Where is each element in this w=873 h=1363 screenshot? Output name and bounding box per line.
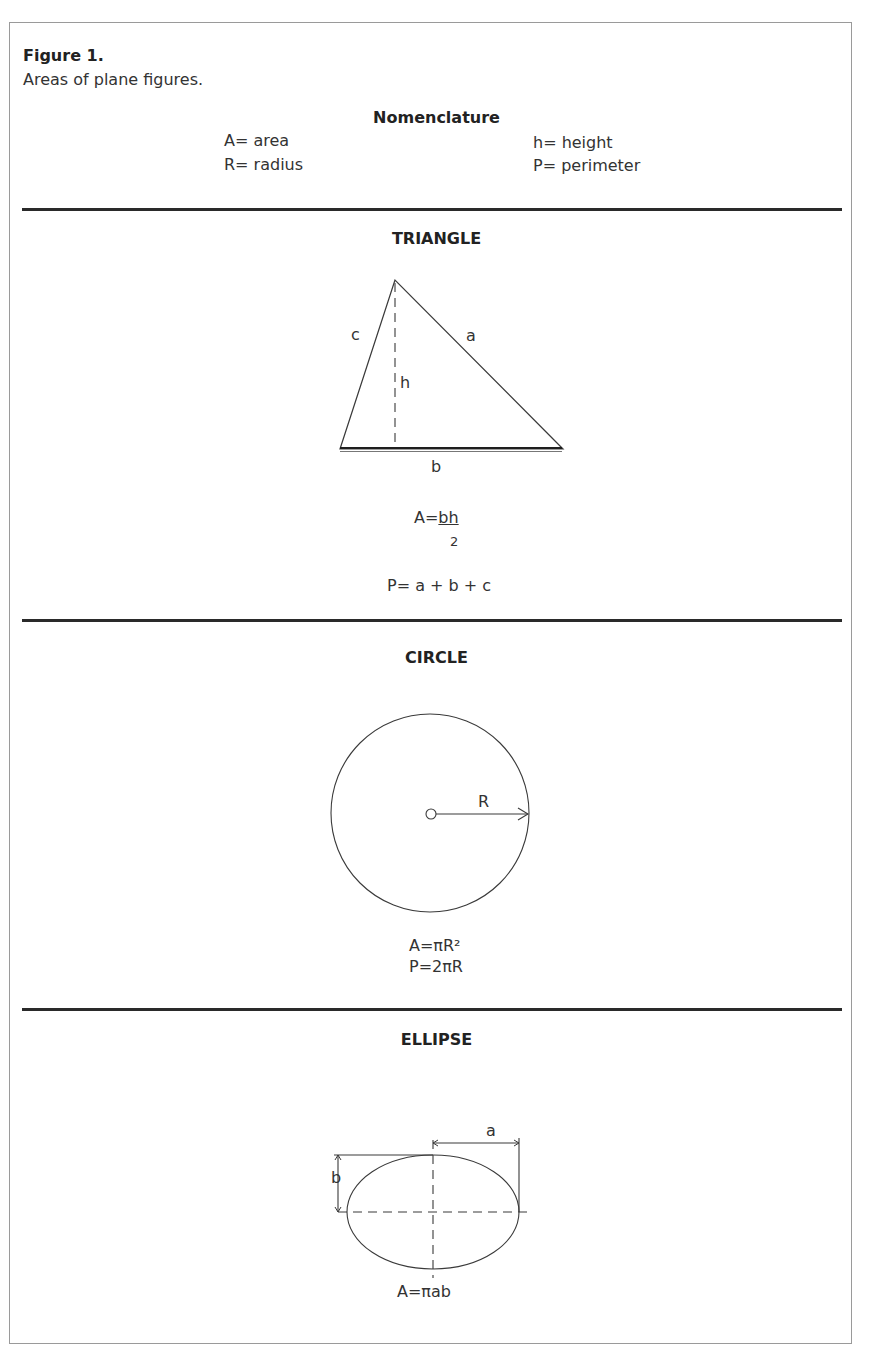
- ellipse-label-a: a: [486, 1121, 496, 1140]
- ellipse-label-b: b: [331, 1168, 341, 1187]
- ellipse-area-formula: A=πab: [397, 1282, 451, 1301]
- ellipse-diagram: [0, 0, 873, 1363]
